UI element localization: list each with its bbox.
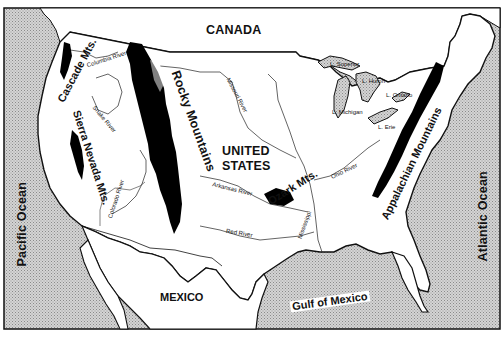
country-label-canada: CANADA xyxy=(206,24,261,37)
water-label-erie: L. Erie xyxy=(378,124,395,130)
water-label-huron: L. Huron xyxy=(362,78,385,84)
water-label-superior: L. Superior xyxy=(330,61,359,67)
country-label-usa-line1: UNITED xyxy=(222,145,270,158)
water-label-ontario: L. Ontario xyxy=(386,92,412,98)
country-label-mexico: MEXICO xyxy=(160,292,203,303)
country-label-usa-line2: STATES xyxy=(222,160,271,173)
water-label-atlantic: Atlantic Ocean xyxy=(477,171,490,261)
water-label-michigan: L. Michigan xyxy=(332,109,363,115)
water-label-pacific: Pacific Ocean xyxy=(16,182,29,267)
